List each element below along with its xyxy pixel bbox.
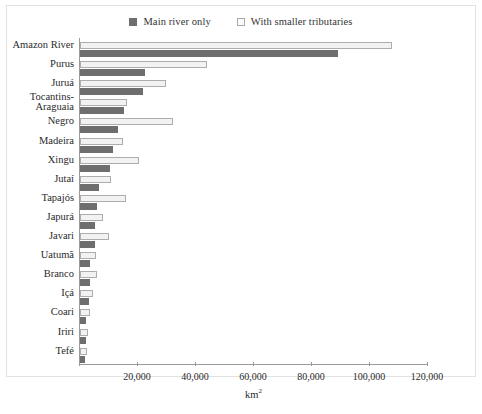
x-axis-title: km2 bbox=[79, 387, 428, 400]
bar-tributaries bbox=[80, 157, 139, 164]
bar-main-river bbox=[80, 279, 90, 286]
x-tick-mark bbox=[137, 362, 138, 366]
bar-main-river bbox=[80, 203, 97, 210]
bar-tributaries bbox=[80, 329, 88, 336]
bar-tributaries bbox=[80, 348, 87, 355]
bar-tributaries bbox=[80, 290, 93, 297]
bar-main-river bbox=[80, 88, 143, 95]
legend-label-main-river: Main river only bbox=[143, 16, 210, 27]
category-label: Coari bbox=[0, 307, 80, 317]
category-label: Branco bbox=[0, 269, 80, 279]
bar-tributaries bbox=[80, 214, 103, 221]
legend-label-tributaries: With smaller tributaries bbox=[251, 16, 353, 27]
bar-tributaries bbox=[80, 176, 111, 183]
bar-main-river bbox=[80, 69, 145, 76]
category-label: Purus bbox=[0, 59, 80, 69]
bar-main-river bbox=[80, 107, 124, 114]
bar-tributaries bbox=[80, 61, 207, 68]
bar-tributaries bbox=[80, 271, 97, 278]
category-label: Juruá bbox=[0, 78, 80, 88]
category-label: Jutaí bbox=[0, 174, 80, 184]
legend-swatch-main-river-icon bbox=[129, 18, 137, 26]
category-label: Uatumã bbox=[0, 250, 80, 260]
legend-item-tributaries: With smaller tributaries bbox=[237, 16, 353, 27]
category-label: Tefé bbox=[0, 346, 80, 356]
x-tick-mark bbox=[195, 362, 196, 366]
x-tick-mark bbox=[79, 362, 80, 366]
x-tick-mark bbox=[427, 362, 428, 366]
x-tick-label: 80,000 bbox=[297, 371, 325, 382]
bar-main-river bbox=[80, 317, 86, 324]
bar-main-river bbox=[80, 146, 113, 153]
bar-main-river bbox=[80, 356, 85, 363]
category-label: Iriri bbox=[0, 327, 80, 337]
category-label: Javari bbox=[0, 231, 80, 241]
bar-tributaries bbox=[80, 118, 173, 125]
x-tick-label: 60,000 bbox=[239, 371, 267, 382]
category-label: Japurá bbox=[0, 212, 80, 222]
category-label: Içá bbox=[0, 288, 80, 298]
category-label: Amazon River bbox=[0, 40, 80, 50]
bar-main-river bbox=[80, 50, 338, 57]
bar-tributaries bbox=[80, 309, 90, 316]
bar-tributaries bbox=[80, 42, 392, 49]
bar-tributaries bbox=[80, 233, 109, 240]
x-tick-mark bbox=[311, 362, 312, 366]
category-label: Madeira bbox=[0, 136, 80, 146]
bar-main-river bbox=[80, 184, 99, 191]
category-label: Tocantins- Araguaia bbox=[0, 92, 80, 112]
bar-tributaries bbox=[80, 195, 126, 202]
bar-main-river bbox=[80, 337, 86, 344]
bar-tributaries bbox=[80, 99, 127, 106]
x-tick-mark bbox=[369, 362, 370, 366]
legend-swatch-tributaries-icon bbox=[237, 18, 245, 26]
bar-tributaries bbox=[80, 252, 96, 259]
plot-area: Amazon RiverPurusJuruáTocantins- Araguai… bbox=[79, 38, 428, 365]
x-tick-label: 40,000 bbox=[181, 371, 209, 382]
bar-main-river bbox=[80, 222, 95, 229]
bar-main-river bbox=[80, 241, 95, 248]
chart-figure: Main river only With smaller tributaries… bbox=[0, 0, 482, 414]
x-tick-mark bbox=[253, 362, 254, 366]
x-tick-label: 20,000 bbox=[123, 371, 151, 382]
category-label: Negro bbox=[0, 116, 80, 126]
legend-item-main-river: Main river only bbox=[129, 16, 210, 27]
category-label: Xingu bbox=[0, 155, 80, 165]
bar-tributaries bbox=[80, 138, 123, 145]
bar-tributaries bbox=[80, 80, 166, 87]
bar-main-river bbox=[80, 165, 110, 172]
bar-main-river bbox=[80, 126, 118, 133]
bar-main-river bbox=[80, 298, 89, 305]
bar-main-river bbox=[80, 260, 90, 267]
chart-legend: Main river only With smaller tributaries bbox=[0, 16, 482, 27]
x-tick-label: 100,000 bbox=[353, 371, 386, 382]
x-tick-label: 120,000 bbox=[411, 371, 444, 382]
category-label: Tapajós bbox=[0, 193, 80, 203]
